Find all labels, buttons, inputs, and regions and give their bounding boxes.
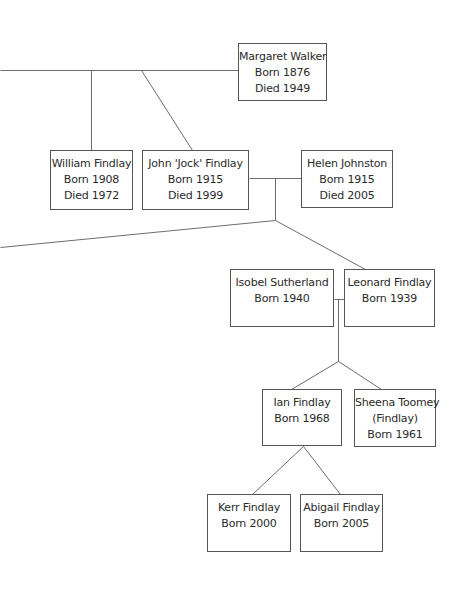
person-born: Born 1915 xyxy=(302,172,392,188)
person-box-john-jock-findlay: John 'Jock' Findlay Born 1915 Died 1999 xyxy=(142,150,249,210)
person-box-sheena-toomey: Sheena Toomey (Findlay) Born 1961 xyxy=(354,389,436,447)
person-born: Born 2000 xyxy=(208,516,290,532)
person-name: William Findlay xyxy=(51,156,132,172)
person-born: Born 1939 xyxy=(345,291,434,307)
person-born: Born 2005 xyxy=(301,516,382,532)
connector-line xyxy=(253,447,304,495)
person-born: Born 1908 xyxy=(51,172,132,188)
person-maiden-name: (Findlay) xyxy=(355,411,435,427)
person-box-william-findlay: William Findlay Born 1908 Died 1972 xyxy=(50,150,133,210)
person-died: Died 1999 xyxy=(143,188,248,204)
person-died: Died 1972 xyxy=(51,188,132,204)
person-box-leonard-findlay: Leonard Findlay Born 1939 xyxy=(344,269,435,327)
person-box-kerr-findlay: Kerr Findlay Born 2000 xyxy=(207,494,291,552)
connector-line xyxy=(304,447,341,495)
connector-line xyxy=(1,221,276,248)
person-name: Helen Johnston xyxy=(302,156,392,172)
person-box-margaret-walker: Margaret Walker Born 1876 Died 1949 xyxy=(238,43,327,101)
person-died: Died 2005 xyxy=(302,188,392,204)
person-name: Leonard Findlay xyxy=(345,275,434,291)
person-name: Ian Findlay xyxy=(263,395,341,411)
connector-line xyxy=(292,362,339,390)
connector-line xyxy=(142,71,193,151)
person-box-isobel-sutherland: Isobel Sutherland Born 1940 xyxy=(230,269,334,327)
person-name: Abigail Findlay xyxy=(301,500,382,516)
person-box-helen-johnston: Helen Johnston Born 1915 Died 2005 xyxy=(301,150,393,208)
person-born: Born 1915 xyxy=(143,172,248,188)
person-name: Isobel Sutherland xyxy=(231,275,333,291)
person-name: Margaret Walker xyxy=(239,49,326,65)
person-died: Died 1949 xyxy=(239,81,326,97)
connector-line xyxy=(276,221,366,270)
person-name: Sheena Toomey xyxy=(355,395,435,411)
person-born: Born 1961 xyxy=(355,427,435,443)
person-born: Born 1968 xyxy=(263,411,341,427)
person-box-abigail-findlay: Abigail Findlay Born 2005 xyxy=(300,494,383,552)
person-box-ian-findlay: Ian Findlay Born 1968 xyxy=(262,389,342,446)
person-name: Kerr Findlay xyxy=(208,500,290,516)
person-name: John 'Jock' Findlay xyxy=(143,156,248,172)
person-born: Born 1940 xyxy=(231,291,333,307)
person-born: Born 1876 xyxy=(239,65,326,81)
connector-line xyxy=(339,362,382,390)
